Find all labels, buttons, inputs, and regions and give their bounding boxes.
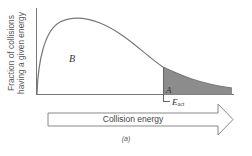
y-axis-label-line2: having a given energy (17, 12, 27, 94)
activation-energy-subscript: act (178, 101, 185, 107)
region-b-label: B (69, 53, 75, 64)
x-axis-label: Collision energy (48, 113, 218, 126)
figure-caption: (a) (0, 135, 252, 142)
y-axis-label: Fraction of collisions having a given en… (2, 10, 32, 96)
energy-distribution-diagram (0, 0, 252, 156)
activation-energy-label: Eact (172, 97, 185, 107)
region-a-label: A (166, 85, 172, 95)
distribution-curve (37, 18, 232, 94)
